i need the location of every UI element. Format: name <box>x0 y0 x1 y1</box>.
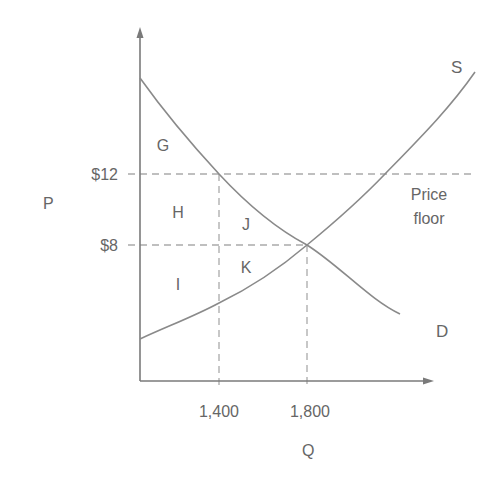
x-axis-label: Q <box>302 442 314 459</box>
region-k-label: K <box>241 259 252 276</box>
tick-qty-1400: 1,400 <box>199 403 239 420</box>
tick-price-12: $12 <box>91 166 118 183</box>
price-floor-label-line1: Price <box>411 186 448 203</box>
region-j-label: J <box>242 216 250 233</box>
supply-label: S <box>451 58 462 77</box>
x-axis-arrow-icon <box>423 378 434 385</box>
demand-label: D <box>436 322 448 341</box>
region-g-label: G <box>157 137 169 154</box>
tick-qty-1800: 1,800 <box>290 403 330 420</box>
tick-price-8: $8 <box>100 237 118 254</box>
y-axis-arrow-icon <box>137 27 144 38</box>
supply-demand-diagram: P Q $12 $8 1,400 1,800 S D Price floor G… <box>0 0 501 489</box>
y-axis-label: P <box>43 195 54 212</box>
region-h-label: H <box>172 204 184 221</box>
price-floor-label-line2: floor <box>413 210 445 227</box>
region-i-label: I <box>176 276 180 293</box>
